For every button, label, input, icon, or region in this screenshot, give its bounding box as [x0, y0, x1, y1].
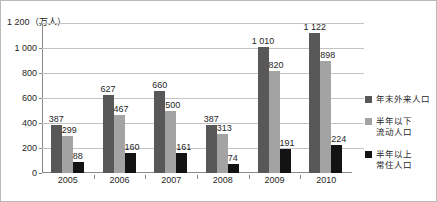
x-axis-tick-label: 2010 [300, 175, 352, 185]
plot-area: 02004006008001 000 387299886274671606605… [42, 23, 352, 173]
bar: 161 [176, 153, 187, 173]
legend-label: 半年以上 常住人口 [376, 149, 412, 171]
bar-value-label: 387 [49, 114, 64, 124]
x-axis-tick-label: 2006 [94, 175, 146, 185]
y-axis-tick-label: 800 [22, 68, 37, 78]
y-axis-tick-label: 400 [22, 118, 37, 128]
bar-value-label: 160 [125, 142, 140, 152]
bar-value-label: 1 010 [252, 36, 275, 46]
bar-group: 627467160 [94, 23, 146, 173]
x-axis-tick-label: 2009 [249, 175, 301, 185]
x-axis-separator [249, 175, 250, 179]
bar-group: 38729988 [42, 23, 94, 173]
bar: 820 [269, 71, 280, 174]
legend-item[interactable]: 半年以上 常住人口 [365, 149, 435, 171]
bar-groups: 38729988627467160660500161387313741 0108… [42, 23, 352, 173]
bars: 38729988 [51, 23, 85, 173]
bar-value-label: 627 [100, 84, 115, 94]
bar-group: 1 010820191 [249, 23, 301, 173]
x-axis-separator [94, 175, 95, 179]
bar: 224 [331, 145, 342, 173]
bars: 627467160 [103, 23, 137, 173]
bars: 1 010820191 [258, 23, 292, 173]
bar-value-label: 820 [269, 60, 284, 70]
legend-item[interactable]: 半年以下 流动人口 [365, 116, 435, 138]
x-axis-tick-label: 2005 [42, 175, 94, 185]
y-axis-tick-label: 0 [32, 168, 37, 178]
x-axis-separator [145, 175, 146, 179]
bar-group: 1 122898224 [300, 23, 352, 173]
bars: 660500161 [154, 23, 188, 173]
bar: 1 122 [309, 33, 320, 173]
bar-group: 660500161 [145, 23, 197, 173]
bar-value-label: 88 [73, 151, 83, 161]
bar-value-label: 660 [152, 80, 167, 90]
bar-value-label: 74 [228, 153, 238, 163]
bar: 627 [103, 95, 114, 173]
bar: 387 [51, 125, 62, 173]
legend-label: 年末外来人口 [376, 94, 430, 105]
bar: 467 [114, 115, 125, 173]
bar: 160 [125, 153, 136, 173]
bar: 660 [154, 91, 165, 174]
x-axis-tick-labels: 200520062007200820092010 [42, 175, 352, 185]
legend-item[interactable]: 年末外来人口 [365, 94, 435, 105]
bar-value-label: 299 [62, 125, 77, 135]
legend-swatch-icon [365, 151, 372, 158]
bar: 1 010 [258, 47, 269, 173]
chart-legend: 年末外来人口半年以下 流动人口半年以上 常住人口 [365, 94, 435, 182]
bar: 74 [228, 164, 239, 173]
bar: 191 [280, 149, 291, 173]
x-axis-tick-label: 2008 [197, 175, 249, 185]
gridline: 0 [42, 173, 364, 174]
bar: 898 [320, 61, 331, 173]
bar: 313 [217, 134, 228, 173]
bars: 1 122898224 [309, 23, 343, 173]
bar-value-label: 313 [217, 123, 232, 133]
y-axis-tick-label: 600 [22, 93, 37, 103]
bar-value-label: 500 [165, 100, 180, 110]
bar-value-label: 161 [176, 142, 191, 152]
bar-value-label: 467 [114, 104, 129, 114]
legend-label: 半年以下 流动人口 [376, 116, 412, 138]
bar: 299 [62, 136, 73, 173]
legend-swatch-icon [365, 118, 372, 125]
bar-value-label: 224 [331, 134, 346, 144]
legend-swatch-icon [365, 96, 372, 103]
bar: 500 [165, 111, 176, 174]
x-axis-tick-label: 2007 [145, 175, 197, 185]
y-axis-tick-mark [39, 173, 42, 174]
bars: 38731374 [206, 23, 240, 173]
y-axis-tick-label: 1 000 [14, 43, 37, 53]
x-axis-separator [197, 175, 198, 179]
bar-chart: 1 200（万人） 02004006008001 000 38729988627… [0, 0, 437, 202]
bar-value-label: 898 [320, 50, 335, 60]
bar: 387 [206, 125, 217, 173]
bar: 88 [73, 162, 84, 173]
bar-group: 38731374 [197, 23, 249, 173]
bar-value-label: 1 122 [303, 22, 326, 32]
y-axis-tick-label: 200 [22, 143, 37, 153]
x-axis-separator [300, 175, 301, 179]
bar-value-label: 191 [280, 138, 295, 148]
